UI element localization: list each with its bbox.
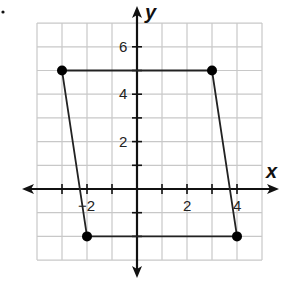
y-tick-label: 6 bbox=[119, 38, 127, 55]
vertex-point bbox=[207, 66, 217, 76]
x-tick-label: 2 bbox=[183, 197, 191, 214]
vertex-point bbox=[82, 231, 92, 241]
x-axis-label: x bbox=[265, 160, 278, 182]
x-tick-label: −2 bbox=[78, 197, 95, 214]
tick-labels: −224246 bbox=[78, 38, 241, 214]
grid-lines bbox=[37, 23, 262, 260]
y-tick-label: 2 bbox=[119, 133, 127, 150]
vertex-point bbox=[57, 66, 67, 76]
y-axis-label: y bbox=[144, 1, 157, 23]
x-tick-label: 4 bbox=[233, 197, 241, 214]
vertex-point bbox=[232, 231, 242, 241]
y-tick-label: 4 bbox=[119, 85, 127, 102]
coordinate-plane: −224246 x y bbox=[0, 0, 291, 290]
parallelogram bbox=[57, 66, 242, 242]
bullet-dot bbox=[1, 10, 4, 13]
